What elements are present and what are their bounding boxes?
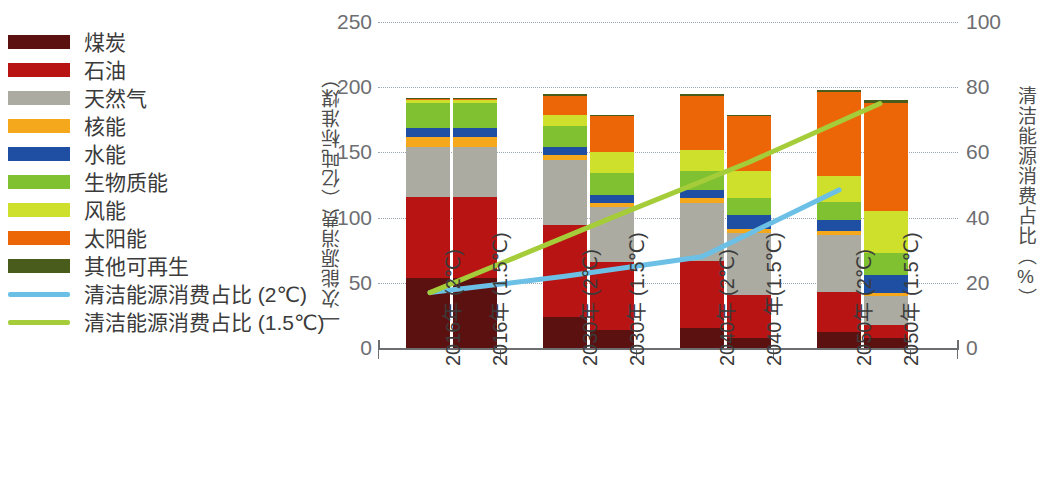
bar-segment [727, 171, 771, 198]
bar-segment [680, 96, 724, 149]
bar-segment [543, 126, 587, 147]
bar-segment [727, 116, 771, 171]
x-axis-label: 2050年 (2℃) [848, 249, 877, 366]
x-axis-label: 2030年 (2℃) [574, 249, 603, 366]
bar-segment [727, 198, 771, 215]
x-axis-label: 2040年 (2℃) [711, 249, 740, 366]
bar-segment [543, 115, 587, 127]
x-axis-label: 2016年 (2℃) [437, 249, 466, 366]
y-axis-right-tick-label: 60 [966, 140, 1018, 164]
bar-segment [817, 176, 861, 202]
bar-segment [817, 92, 861, 175]
y-axis-left-tick-label: 100 [320, 206, 372, 230]
bar-segment [453, 128, 497, 137]
bar-segment [453, 137, 497, 147]
bar-segment [453, 103, 497, 128]
y-axis-right-tick-label: 80 [966, 75, 1018, 99]
y-axis-right-tick-label: 0 [966, 336, 1018, 360]
bar-segment [543, 147, 587, 155]
bar-segment [590, 173, 634, 195]
x-axis-label: 2016年 (1.5℃) [484, 232, 513, 366]
x-axis-label: 2030年 (1.5℃) [621, 232, 650, 366]
y-axis-left-tick-label: 0 [320, 336, 372, 360]
x-axis-tick [957, 348, 958, 359]
bar-segment [543, 96, 587, 114]
bar-segment [864, 103, 908, 211]
chart-plot-area: 一次能源消费（亿吨标准煤） 清洁能源消费占比（%） 05010015020025… [0, 0, 1041, 502]
bar-segment [453, 147, 497, 197]
x-axis-label: 2040 年(1.5℃) [758, 232, 787, 366]
y-axis-right-tick-label: 20 [966, 271, 1018, 295]
y-axis-left-tick-label: 50 [320, 271, 372, 295]
bar-segment [817, 220, 861, 230]
bar-segment [406, 137, 450, 147]
x-axis-tick [378, 348, 379, 359]
y-axis-left-tick-label: 250 [320, 10, 372, 34]
bar-segment [680, 190, 724, 198]
bar-segment [680, 150, 724, 171]
bar-segment [590, 116, 634, 153]
bar-segment [406, 103, 450, 128]
bar-segment [590, 195, 634, 203]
x-axis-label: 2050年 (1.5℃) [895, 232, 924, 366]
bar-segment [543, 160, 587, 225]
bar-segment [817, 202, 861, 220]
bar-segment [406, 128, 450, 137]
bar-segment [406, 147, 450, 197]
bar-segment [680, 171, 724, 191]
y-axis-left-tick-label: 150 [320, 140, 372, 164]
y-axis-right-tick-label: 100 [966, 10, 1018, 34]
y-axis-left-tick-label: 200 [320, 75, 372, 99]
bar-segment [590, 152, 634, 173]
y-axis-right-tick-label: 40 [966, 206, 1018, 230]
bar-segment [727, 215, 771, 229]
